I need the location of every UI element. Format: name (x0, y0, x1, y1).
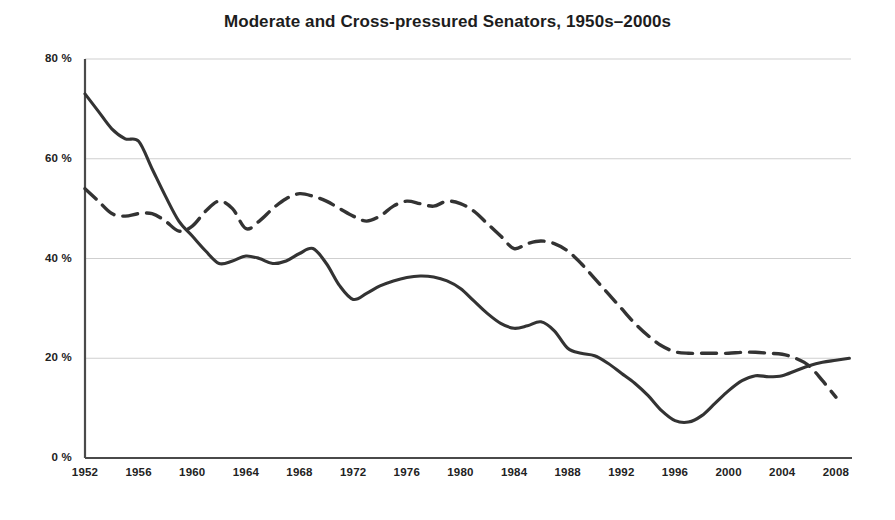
x-tick-label-1972: 1972 (327, 466, 379, 478)
x-tick-label-1984: 1984 (488, 466, 540, 478)
x-tick-label-1980: 1980 (434, 466, 486, 478)
x-tick-label-2000: 2000 (703, 466, 755, 478)
chart-figure: Moderate and Cross-pressured Senators, 1… (0, 0, 895, 520)
y-tick-label-20: 20 % (12, 351, 72, 363)
x-tick-label-1964: 1964 (220, 466, 272, 478)
x-tick-label-1968: 1968 (274, 466, 326, 478)
x-tick-label-1988: 1988 (542, 466, 594, 478)
x-tick-label-1960: 1960 (166, 466, 218, 478)
x-tick-label-2008: 2008 (810, 466, 862, 478)
y-tick-label-40: 40 % (12, 252, 72, 264)
x-tick-label-1992: 1992 (595, 466, 647, 478)
x-tick-label-1952: 1952 (59, 466, 111, 478)
x-tick-label-1976: 1976 (381, 466, 433, 478)
series-line-2 (85, 189, 836, 397)
y-tick-label-0: 0 % (12, 451, 72, 463)
y-tick-label-80: 80 % (12, 52, 72, 64)
x-tick-label-1956: 1956 (113, 466, 165, 478)
x-tick-label-1996: 1996 (649, 466, 701, 478)
x-tick-label-2004: 2004 (756, 466, 808, 478)
y-tick-label-60: 60 % (12, 152, 72, 164)
chart-plot-area (0, 0, 895, 520)
gridlines (85, 59, 851, 358)
